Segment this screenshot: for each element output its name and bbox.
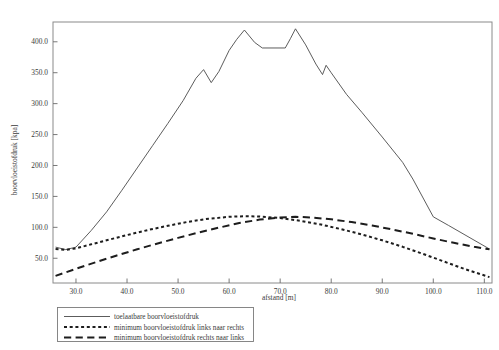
legend-label-2: minimum boorvloeistofdruk rechts naar li…	[114, 334, 244, 342]
x-tick-label: 80.0	[325, 287, 338, 296]
x-tick-label: 110.0	[476, 287, 493, 296]
y-tick-label: 150.0	[31, 192, 48, 201]
chart-figure: 30.040.050.060.070.080.090.0100.0110.0 5…	[0, 0, 499, 350]
x-tick-label: 30.0	[70, 287, 83, 296]
y-tick-label: 50.0	[35, 254, 48, 263]
y-tick-label: 300.0	[31, 99, 48, 108]
y-tick-label: 100.0	[31, 223, 48, 232]
y-tick-label: 400.0	[31, 37, 48, 46]
chart-background	[0, 0, 499, 350]
legend-label-1: minimum boorvloeistofdruk links naar rec…	[114, 324, 244, 332]
line-chart-canvas: 30.040.050.060.070.080.090.0100.0110.0 5…	[0, 0, 499, 350]
y-tick-label: 200.0	[31, 161, 48, 170]
y-axis-title: boorvloeistofdruk [kpa]	[10, 125, 19, 195]
x-tick-label: 40.0	[121, 287, 134, 296]
legend-label-0: toelaatbare boorvloeistofdruk	[114, 313, 199, 321]
y-tick-label: 250.0	[31, 130, 48, 139]
y-tick-label: 350.0	[31, 68, 48, 77]
x-tick-label: 100.0	[425, 287, 442, 296]
x-axis-title: afstand [m]	[262, 293, 296, 302]
x-tick-label: 50.0	[172, 287, 185, 296]
x-tick-label: 90.0	[376, 287, 389, 296]
x-tick-label: 60.0	[223, 287, 236, 296]
